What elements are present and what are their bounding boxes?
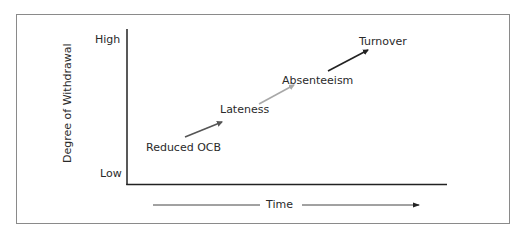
y-axis-title: Degree of Withdrawal — [61, 43, 74, 163]
stage-reduced-ocb: Reduced OCB — [146, 141, 221, 154]
withdrawal-progression-diagram — [0, 0, 527, 232]
stage-absenteeism: Absenteeism — [282, 74, 353, 87]
arrow-lateness-to-absenteeism — [259, 85, 294, 104]
y-axis-high-label: High — [95, 33, 120, 46]
arrow-absenteeism-to-turnover — [328, 50, 368, 71]
stage-lateness: Lateness — [220, 103, 269, 116]
y-axis-low-label: Low — [100, 167, 122, 180]
stage-turnover: Turnover — [359, 35, 407, 48]
x-axis-title: Time — [266, 198, 293, 211]
arrow-ocb-to-lateness — [185, 122, 222, 137]
